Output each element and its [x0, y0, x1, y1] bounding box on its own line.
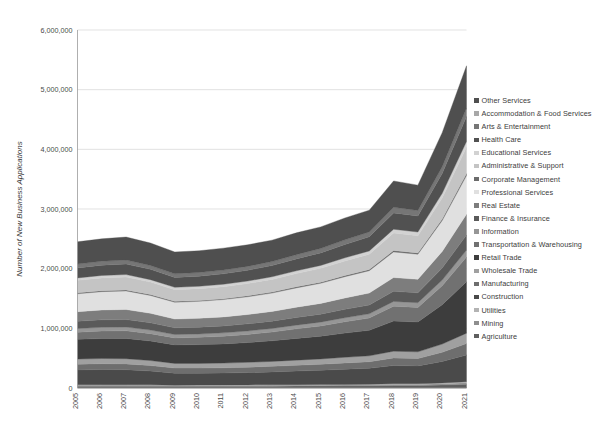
- legend-item-label: Finance & Insurance: [482, 212, 550, 225]
- legend-item-label: Health Care: [482, 133, 522, 146]
- legend-swatch-icon: [474, 242, 479, 247]
- y-axis-title-text: Number of New Business Applications: [15, 141, 24, 276]
- x-tick-label: 2011: [216, 393, 225, 408]
- x-tick-label: 2015: [314, 393, 323, 409]
- y-tick-labels: 01,000,0002,000,0003,000,0004,000,0005,0…: [41, 26, 73, 393]
- legend-swatch-icon: [474, 151, 479, 156]
- x-tick-label: 2007: [119, 393, 128, 409]
- x-tick-label: 2008: [143, 393, 152, 409]
- x-tick-label: 2013: [265, 393, 274, 409]
- x-tick-label: 2012: [241, 393, 250, 409]
- legend-item[interactable]: Manufacturing: [474, 277, 610, 290]
- legend-item-label: Retail Trade: [482, 251, 522, 264]
- x-tick-label: 2009: [168, 393, 177, 409]
- legend-item-label: Manufacturing: [482, 277, 529, 290]
- legend-item-label: Agriculture: [482, 330, 518, 343]
- legend-item[interactable]: Construction: [474, 290, 610, 303]
- y-tick-label: 4,000,000: [41, 145, 73, 154]
- legend-item-label: Wholesale Trade: [482, 264, 538, 277]
- legend-item-label: Transportation & Warehousing: [482, 238, 582, 251]
- legend-swatch-icon: [474, 295, 479, 300]
- chart-container: 01,000,0002,000,0003,000,0004,000,0005,0…: [0, 0, 612, 430]
- legend-item-label: Arts & Entertainment: [482, 120, 551, 133]
- y-axis-title: Number of New Business Applications: [15, 141, 24, 276]
- legend-item-label: Administrative & Support: [482, 159, 564, 172]
- x-tick-label: 2017: [362, 393, 371, 409]
- x-tick-label: 2021: [460, 393, 469, 409]
- legend-item[interactable]: Utilities: [474, 304, 610, 317]
- legend-swatch-icon: [474, 269, 479, 274]
- chart-legend: Other ServicesAccommodation & Food Servi…: [474, 94, 610, 343]
- legend-item[interactable]: Administrative & Support: [474, 159, 610, 172]
- legend-swatch-icon: [474, 255, 479, 260]
- x-tick-label: 2020: [435, 393, 444, 409]
- legend-swatch-icon: [474, 216, 479, 221]
- legend-item[interactable]: Health Care: [474, 133, 610, 146]
- legend-swatch-icon: [474, 321, 479, 326]
- legend-item[interactable]: Information: [474, 225, 610, 238]
- legend-item[interactable]: Other Services: [474, 94, 610, 107]
- x-tick-label: 2005: [71, 393, 80, 409]
- x-tick-label: 2010: [192, 393, 201, 409]
- y-tick-label: 6,000,000: [41, 26, 73, 35]
- y-tick-label: 2,000,000: [41, 264, 73, 273]
- x-tick-label: 2019: [411, 393, 420, 409]
- legend-item[interactable]: Arts & Entertainment: [474, 120, 610, 133]
- legend-item[interactable]: Finance & Insurance: [474, 212, 610, 225]
- legend-item[interactable]: Mining: [474, 317, 610, 330]
- legend-swatch-icon: [474, 98, 479, 103]
- area-layer: [78, 66, 467, 388]
- y-tick-label: 3,000,000: [41, 205, 73, 214]
- legend-swatch-icon: [474, 190, 479, 195]
- x-tick-label: 2018: [387, 393, 396, 409]
- x-tick-label: 2014: [289, 393, 298, 409]
- legend-item-label: Other Services: [482, 94, 531, 107]
- legend-item-label: Educational Services: [482, 146, 552, 159]
- legend-item[interactable]: Educational Services: [474, 146, 610, 159]
- legend-item[interactable]: Transportation & Warehousing: [474, 238, 610, 251]
- legend-item-label: Utilities: [482, 304, 506, 317]
- legend-swatch-icon: [474, 229, 479, 234]
- y-tick-label: 0: [69, 384, 73, 393]
- legend-item-label: Information: [482, 225, 519, 238]
- legend-swatch-icon: [474, 111, 479, 116]
- legend-item-label: Corporate Management: [482, 173, 561, 186]
- legend-item[interactable]: Professional Services: [474, 186, 610, 199]
- legend-swatch-icon: [474, 177, 479, 182]
- legend-item[interactable]: Agriculture: [474, 330, 610, 343]
- legend-item[interactable]: Wholesale Trade: [474, 264, 610, 277]
- legend-swatch-icon: [474, 308, 479, 313]
- legend-item-label: Professional Services: [482, 186, 554, 199]
- legend-item[interactable]: Retail Trade: [474, 251, 610, 264]
- y-tick-label: 1,000,000: [41, 324, 73, 333]
- legend-item-label: Real Estate: [482, 199, 521, 212]
- legend-item-label: Mining: [482, 317, 504, 330]
- x-tick-labels: 2005200620072008200920102011201220132014…: [71, 393, 469, 409]
- legend-item-label: Accommodation & Food Services: [482, 107, 592, 120]
- x-tick-label: 2016: [338, 393, 347, 409]
- legend-swatch-icon: [474, 203, 479, 208]
- legend-swatch-icon: [474, 164, 479, 169]
- x-tick-label: 2006: [95, 393, 104, 409]
- legend-swatch-icon: [474, 138, 479, 143]
- legend-swatch-icon: [474, 282, 479, 287]
- legend-item[interactable]: Accommodation & Food Services: [474, 107, 610, 120]
- y-tick-label: 5,000,000: [41, 85, 73, 94]
- legend-item[interactable]: Corporate Management: [474, 173, 610, 186]
- legend-item-label: Construction: [482, 290, 524, 303]
- legend-swatch-icon: [474, 124, 479, 129]
- legend-swatch-icon: [474, 334, 479, 339]
- legend-item[interactable]: Real Estate: [474, 199, 610, 212]
